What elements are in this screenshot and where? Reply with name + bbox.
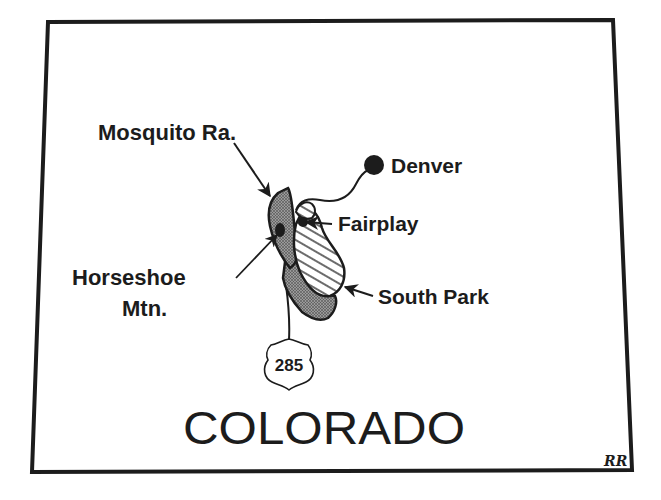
horseshoe-mtn-arrow bbox=[236, 235, 277, 278]
label-horseshoe: Horseshoe bbox=[72, 265, 186, 290]
state-title: COLORADO bbox=[183, 402, 465, 454]
south-park-arrow bbox=[345, 287, 373, 296]
label-fairplay: Fairplay bbox=[338, 212, 419, 235]
colorado-map: Mosquito Ra. Denver Fairplay Horseshoe M… bbox=[0, 0, 661, 500]
highway-route-number: 285 bbox=[275, 356, 303, 375]
label-denver: Denver bbox=[391, 154, 462, 177]
artist-initials: RR bbox=[603, 453, 627, 469]
label-mosquito-range: Mosquito Ra. bbox=[98, 120, 236, 145]
label-horseshoe-mtn: Mtn. bbox=[122, 296, 167, 321]
denver-dot bbox=[364, 155, 384, 175]
south-park-upper-cap bbox=[296, 202, 315, 218]
us-highway-shield-icon: 285 bbox=[265, 339, 314, 390]
label-south-park: South Park bbox=[378, 285, 489, 308]
mosquito-range-arrow bbox=[234, 143, 270, 196]
